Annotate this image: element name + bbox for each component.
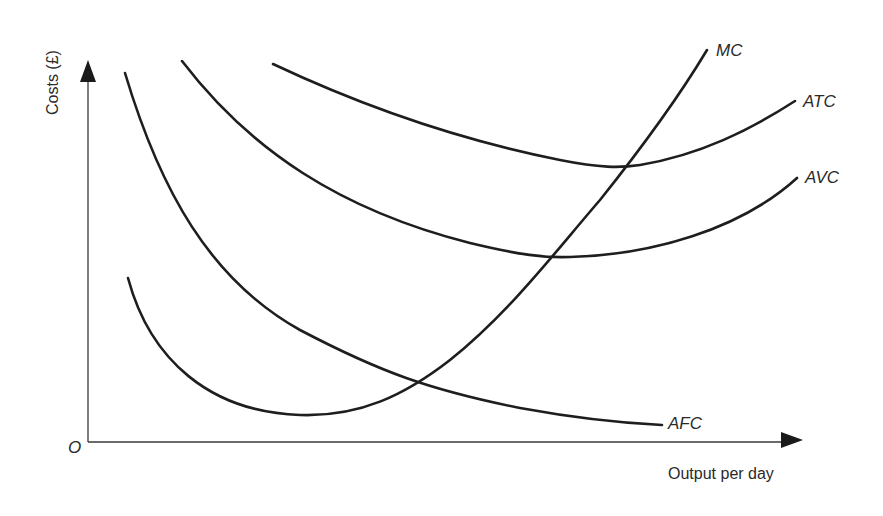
y-axis-arrow-icon — [80, 60, 96, 82]
mc-curve — [128, 50, 707, 415]
x-axis-label: Output per day — [668, 465, 774, 482]
atc-curve — [273, 64, 795, 167]
x-axis-arrow-icon — [781, 432, 803, 448]
atc-label: ATC — [802, 92, 836, 111]
afc-label: AFC — [667, 414, 703, 433]
y-axis-label: Costs (£) — [44, 50, 61, 115]
avc-label: AVC — [804, 168, 840, 187]
origin-label: O — [68, 438, 81, 457]
cost-curves-diagram: O Costs (£) Output per day AFC AVC ATC M… — [0, 0, 883, 516]
avc-curve — [182, 61, 797, 257]
afc-curve — [125, 73, 662, 425]
mc-label: MC — [716, 41, 743, 60]
